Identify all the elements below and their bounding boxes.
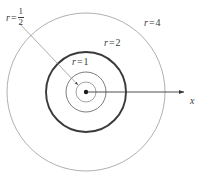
fraction-numerator: 1 [18, 7, 25, 16]
label-r-four-value: 4 [156, 17, 161, 28]
label-r-two-equals: = [108, 37, 116, 48]
x-axis-label: x [190, 96, 194, 106]
label-r-four-equals: = [148, 17, 156, 28]
label-r-one-value: 1 [84, 56, 89, 67]
circles-diagram: r= 1 2 r=4 r=2 r=1 x [0, 0, 211, 175]
diagram-canvas [0, 0, 211, 175]
label-r-two-value: 2 [116, 37, 121, 48]
label-r-half-equals: = [10, 12, 18, 23]
origin-point [84, 90, 88, 94]
fraction-one-half: 1 2 [18, 7, 25, 27]
label-r-one-equals: = [76, 56, 84, 67]
label-r-half: r= 1 2 [6, 7, 24, 27]
label-r-one: r=1 [72, 57, 89, 67]
label-r-four: r=4 [144, 18, 161, 28]
label-r-two: r=2 [104, 38, 121, 48]
fraction-denominator: 2 [18, 18, 25, 27]
